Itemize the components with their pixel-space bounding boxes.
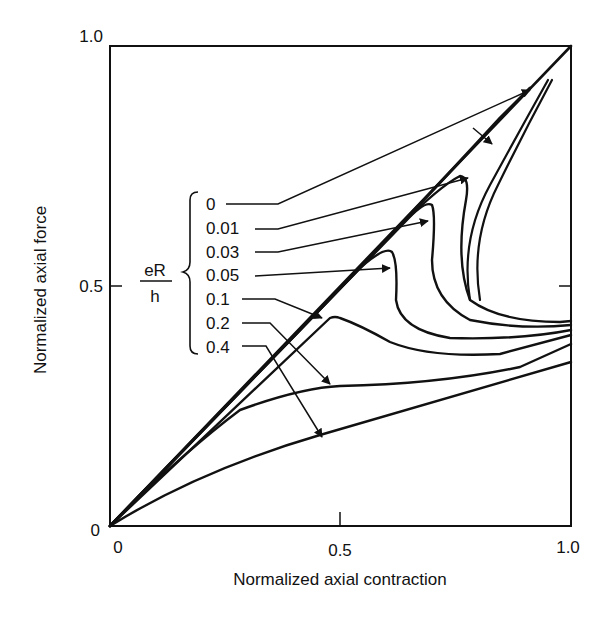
leader-0.03 (255, 221, 428, 252)
leader-0.1 (242, 299, 322, 318)
legend-item-0.2: 0.2 (206, 314, 230, 333)
y-tick-label-mid: 0.5 (79, 277, 103, 296)
legend-item-0.05: 0.05 (206, 266, 239, 285)
x-tick-label-0: 0 (113, 538, 122, 557)
y-axis-title: Normalized axial force (31, 206, 50, 374)
legend-item-0: 0 (206, 195, 215, 214)
x-tick-label-mid: 0.5 (328, 541, 352, 560)
legend-title-numerator: eR (144, 261, 166, 280)
legend-item-0.1: 0.1 (206, 290, 230, 309)
curve-0.1 (110, 317, 571, 526)
chart: 0 0.5 1.0 0 0.5 1.0 Normalized axial con… (0, 0, 615, 617)
leader-0.05 (255, 268, 390, 276)
legend-item-0.03: 0.03 (206, 243, 239, 262)
curve-0.03 (110, 204, 571, 526)
y-tick-label-0: 0 (91, 521, 100, 540)
y-tick-label-max: 1.0 (79, 27, 103, 46)
curve-0.01 (110, 176, 571, 526)
curve-0.05 (110, 251, 571, 526)
legend-brace (183, 192, 198, 354)
legend-item-0.4: 0.4 (206, 338, 230, 357)
curve-0.2 (110, 344, 571, 526)
x-axis-title: Normalized axial contraction (233, 570, 447, 589)
legend-item-0.01: 0.01 (206, 219, 239, 238)
leader-0 (226, 90, 530, 204)
legend-title-denominator: h (150, 287, 159, 306)
x-tick-label-max: 1.0 (556, 538, 580, 557)
